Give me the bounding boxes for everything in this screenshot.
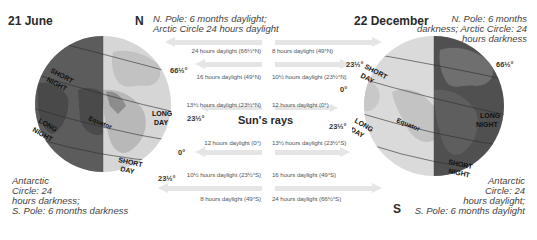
right-daylight-3: 12 hours daylight (0°)	[272, 101, 329, 108]
arrow-left-4	[195, 147, 262, 157]
arrow-right-4	[275, 147, 350, 157]
left-daylight-4: 12 hours daylight (0°)	[204, 139, 261, 146]
left-daylight-2: 16 hours daylight (49°N)	[197, 73, 261, 80]
right-tropic-s-degree: 23½°	[329, 122, 347, 131]
right-arctic-degree: 66½°	[496, 60, 514, 69]
right-tropic-n-degree: 23½°	[346, 60, 364, 69]
right-daylight-6: 24 hours daylight (66½°S)	[272, 195, 341, 202]
sun-rays-label: Sun's rays	[238, 114, 293, 126]
south-pole-label: S	[393, 202, 401, 216]
arrow-left-1	[165, 37, 262, 47]
right-daylight-4: 13½ hours daylight (23½°S)	[272, 139, 346, 146]
svg-text:NIGHT: NIGHT	[476, 121, 499, 128]
right-daylight-2: 10½ hours daylight (23½°N)	[272, 73, 347, 80]
left-daylight-6: 8 hours daylight (49°S)	[200, 195, 261, 202]
right-equator-degree: 0°	[340, 85, 347, 94]
left-daylight-1: 24 hours daylight (66½°N)	[192, 47, 261, 54]
right-south-note: Antarctic Circle: 24 hours daylight; S. …	[415, 176, 525, 216]
right-daylight-1: 8 hours daylight (49°N)	[272, 47, 333, 54]
arrow-left-2	[195, 59, 262, 69]
arrow-left-5	[158, 183, 262, 193]
left-daylight-5: 10½ hours daylight (23½°S)	[187, 171, 261, 178]
right-globe-december: SHORT DAY LONG NIGHT LONG DAY SHORT NIGH…	[352, 34, 522, 184]
right-south-note-line4: S. Pole: 6 months daylight	[415, 206, 525, 216]
left-daylight-3: 13½ hours daylight (23½°N)	[186, 101, 261, 108]
right-long-night-label: LONG	[480, 112, 501, 119]
right-daylight-5: 16 hours daylight (49°S)	[272, 171, 336, 178]
arrow-right-2	[275, 59, 350, 69]
arrow-right-5	[275, 183, 382, 193]
